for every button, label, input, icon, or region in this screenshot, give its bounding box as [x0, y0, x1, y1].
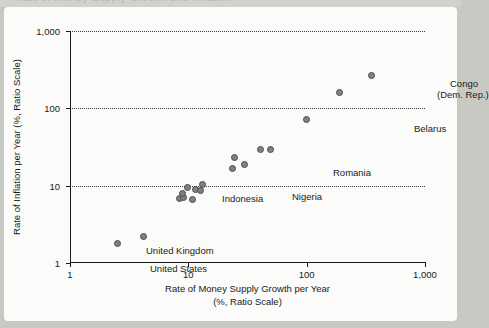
data-point-8[interactable] [197, 187, 204, 194]
y-tick-100 [66, 108, 71, 109]
data-point-15[interactable] [303, 116, 310, 123]
annotation-congo-line2: (Dem. Rep.) [437, 89, 489, 101]
annotation-united-states: United States [150, 263, 207, 275]
data-point-5[interactable] [184, 184, 191, 191]
scan-remnant-text: Rate of Money Supply Growth and Inflatio… [14, 0, 232, 3]
x-tick-label-1: 1 [67, 269, 72, 280]
data-point-indonesia[interactable] [199, 181, 206, 188]
y-axis-title: Rate of Inflation per Year (%, Ratio Sca… [11, 31, 25, 263]
gridline-y-100 [70, 108, 425, 109]
y-tick-label-1,000: 1,000 [36, 26, 60, 37]
data-point-united-kingdom[interactable] [140, 233, 147, 240]
x-axis-title-line2: (%, Ratio Scale) [70, 296, 425, 309]
x-tick-100 [307, 262, 308, 267]
data-point-11[interactable] [231, 154, 238, 161]
y-tick-10 [66, 186, 71, 187]
data-point-congo-dem-rep[interactable] [368, 72, 375, 79]
data-point-united-states[interactable] [114, 240, 121, 247]
x-axis-title-line1: Rate of Money Supply Growth per Year [70, 283, 425, 296]
data-point-nigeria[interactable] [229, 165, 236, 172]
y-tick-label-1: 1 [55, 258, 60, 269]
scan-top-remnant: Rate of Money Supply Growth and Inflatio… [0, 0, 461, 7]
gridline-y-1,000 [70, 31, 425, 32]
x-tick-label-100: 100 [299, 269, 315, 280]
x-tick-label-1,000: 1,000 [413, 269, 437, 280]
annotation-congo-line1: Congo [450, 78, 478, 90]
y-axis-line [70, 31, 71, 263]
data-point-13[interactable] [257, 146, 264, 153]
scatter-chart: Rate of Inflation per Year (%, Ratio Sca… [4, 7, 457, 321]
annotation-indonesia: Indonesia [222, 193, 263, 205]
plot-area: 1101001,0001101001,000 United StatesUnit… [70, 31, 425, 263]
y-tick-label-100: 100 [44, 103, 60, 114]
data-point-6[interactable] [189, 196, 196, 203]
figure-page: Rate of Inflation per Year (%, Ratio Sca… [4, 7, 457, 321]
data-point-romania[interactable] [267, 146, 274, 153]
annotation-romania: Romania [333, 167, 371, 179]
gridline-y-10 [70, 186, 425, 187]
annotation-belarus: Belarus [414, 123, 446, 135]
data-point-12[interactable] [241, 161, 248, 168]
annotation-nigeria: Nigeria [292, 191, 322, 203]
x-axis-title: Rate of Money Supply Growth per Year (%,… [70, 283, 425, 308]
x-tick-1,000 [425, 262, 426, 267]
y-tick-1,000 [66, 31, 71, 32]
x-axis-line [70, 262, 425, 263]
y-tick-label-10: 10 [49, 180, 60, 191]
x-tick-1 [70, 262, 71, 267]
data-point-belarus[interactable] [336, 89, 343, 96]
annotation-united-kingdom: United Kingdom [146, 245, 214, 257]
